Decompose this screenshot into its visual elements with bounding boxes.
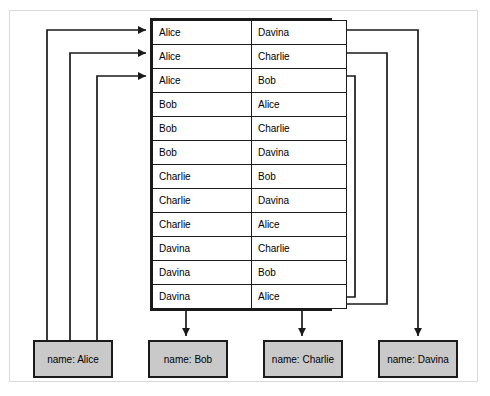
node-label: name: Alice (47, 354, 99, 365)
table-row: Alice Charlie (153, 45, 347, 69)
cell-right: Bob (252, 165, 347, 189)
cell-right: Davina (252, 189, 347, 213)
cell-right: Bob (252, 69, 347, 93)
cell-right: Charlie (252, 45, 347, 69)
diagram-canvas: Alice Davina Alice Charlie Alice Bob Bob… (0, 0, 490, 396)
node-box-alice: name: Alice (33, 340, 113, 378)
cell-right: Alice (252, 213, 347, 237)
cell-right: Davina (252, 21, 347, 45)
join-table-grid: Alice Davina Alice Charlie Alice Bob Bob… (152, 20, 347, 309)
cell-left: Bob (153, 141, 252, 165)
table-row: Alice Bob (153, 69, 347, 93)
table-row: Bob Davina (153, 141, 347, 165)
table-row: Alice Davina (153, 21, 347, 45)
cell-right: Charlie (252, 117, 347, 141)
table-row: Davina Alice (153, 285, 347, 309)
join-table-body: Alice Davina Alice Charlie Alice Bob Bob… (153, 21, 347, 309)
cell-left: Bob (153, 93, 252, 117)
cell-right: Bob (252, 261, 347, 285)
node-label: name: Bob (164, 354, 212, 365)
table-row: Charlie Alice (153, 213, 347, 237)
cell-left: Alice (153, 45, 252, 69)
cell-left: Davina (153, 237, 252, 261)
cell-left: Charlie (153, 213, 252, 237)
table-row: Charlie Davina (153, 189, 347, 213)
cell-left: Charlie (153, 165, 252, 189)
node-box-davina: name: Davina (378, 340, 458, 378)
cell-right: Alice (252, 93, 347, 117)
cell-left: Bob (153, 117, 252, 141)
join-table: Alice Davina Alice Charlie Alice Bob Bob… (150, 18, 332, 311)
table-row: Davina Bob (153, 261, 347, 285)
node-box-bob: name: Bob (148, 340, 228, 378)
cell-right: Alice (252, 285, 347, 309)
cell-left: Charlie (153, 189, 252, 213)
cell-left: Alice (153, 69, 252, 93)
cell-right: Davina (252, 141, 347, 165)
cell-left: Davina (153, 261, 252, 285)
table-row: Bob Alice (153, 93, 347, 117)
node-box-charlie: name: Charlie (263, 340, 343, 378)
table-row: Davina Charlie (153, 237, 347, 261)
node-label: name: Davina (387, 354, 449, 365)
node-label: name: Charlie (272, 354, 334, 365)
cell-right: Charlie (252, 237, 347, 261)
table-row: Charlie Bob (153, 165, 347, 189)
cell-left: Davina (153, 285, 252, 309)
table-row: Bob Charlie (153, 117, 347, 141)
cell-left: Alice (153, 21, 252, 45)
